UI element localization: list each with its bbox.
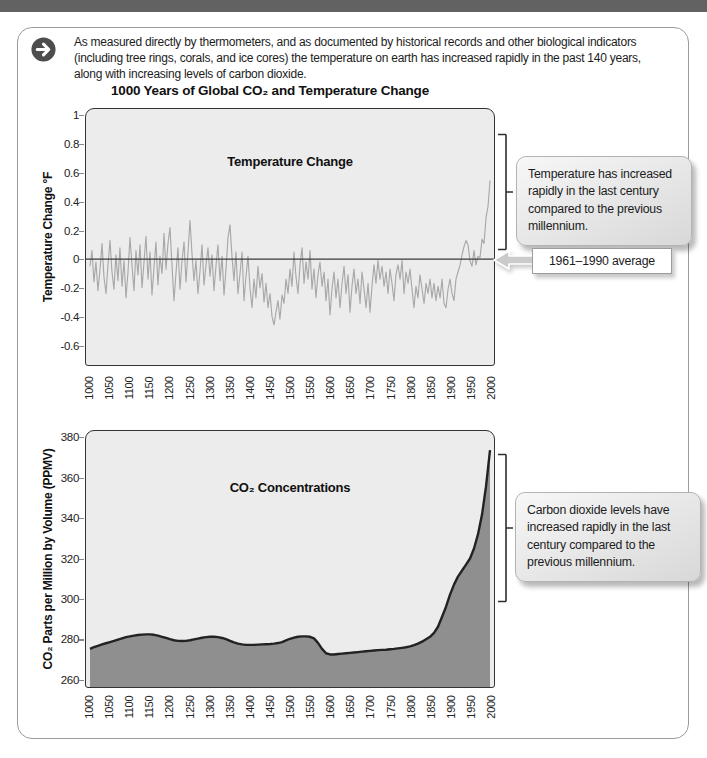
x-tick-label: 1650 [344,371,356,405]
figure-page: As measured directly by thermometers, an… [0,0,707,758]
y-tick-label: 300 [51,592,79,606]
y-tick-mark [79,144,84,145]
x-tick-label: 1950 [465,690,477,724]
x-tick-label: 1900 [445,371,457,405]
average-label: 1961–1990 average [532,248,672,274]
temperature-series-svg [86,109,494,365]
y-tick-mark [79,346,84,347]
annotation-bracket-co2 [495,453,515,603]
callout-co2: Carbon dioxide levels have increased rap… [515,492,701,582]
x-tick-label: 1650 [344,690,356,724]
x-tick-label: 1200 [163,690,175,724]
x-tick-label: 1600 [324,690,336,724]
y-tick-mark [79,478,84,479]
x-tick-label: 1750 [385,690,397,724]
x-tick-label: 2000 [485,690,497,724]
y-tick-mark [79,437,84,438]
x-tick-label: 1050 [103,371,115,405]
x-tick-label: 1600 [324,371,336,405]
x-tick-label: 1900 [445,690,457,724]
y-tick-label: -0.6 [51,339,79,353]
y-tick-mark [79,173,84,174]
y-tick-label: 360 [51,471,79,485]
x-tick-label: 1850 [425,371,437,405]
y-tick-mark [79,288,84,289]
x-tick-label: 2000 [485,371,497,405]
x-tick-label: 1850 [425,690,437,724]
y-tick-label: 0.6 [51,166,79,180]
x-tick-label: 1250 [184,690,196,724]
y-tick-label: 0.4 [51,195,79,209]
x-tick-label: 1300 [204,690,216,724]
x-tick-label: 1100 [123,690,135,724]
y-tick-label: -0.4 [51,310,79,324]
top-bar [0,0,707,12]
y-tick-mark [79,259,84,260]
x-tick-label: 1700 [364,371,376,405]
x-tick-label: 1200 [163,371,175,405]
y-tick-label: 320 [51,552,79,566]
x-tick-label: 1000 [83,371,95,405]
y-tick-mark [79,202,84,203]
y-tick-mark [79,115,84,116]
x-tick-label: 1100 [123,371,135,405]
y-tick-label: 0.2 [51,224,79,238]
co2-series-svg [86,431,494,687]
temperature-plot-area [85,108,495,366]
x-tick-label: 1750 [385,371,397,405]
x-tick-label: 1400 [244,371,256,405]
x-tick-label: 1150 [143,690,155,724]
x-tick-label: 1450 [264,371,276,405]
x-tick-label: 1800 [405,690,417,724]
left-arrow-icon [492,248,534,272]
intro-paragraph: As measured directly by thermometers, an… [74,34,686,82]
x-tick-label: 1350 [224,690,236,724]
x-tick-label: 1400 [244,690,256,724]
x-tick-label: 1500 [284,690,296,724]
x-tick-label: 1550 [304,690,316,724]
x-tick-label: 1450 [264,690,276,724]
arrow-right-circle-icon [30,36,57,63]
y-tick-label: -0.2 [51,281,79,295]
x-tick-label: 1700 [364,690,376,724]
y-tick-mark [79,559,84,560]
x-tick-label: 1000 [83,690,95,724]
y-tick-label: 280 [51,632,79,646]
x-tick-label: 1800 [405,371,417,405]
annotation-bracket-temperature [495,133,515,251]
x-tick-label: 1250 [184,371,196,405]
x-tick-label: 1500 [284,371,296,405]
y-tick-label: 1 [51,108,79,122]
y-tick-mark [79,231,84,232]
y-tick-mark [79,639,84,640]
temperature-chart-title: Temperature Change [85,154,495,169]
x-tick-label: 1150 [143,371,155,405]
y-tick-mark [79,317,84,318]
x-tick-label: 1550 [304,371,316,405]
x-tick-label: 1350 [224,371,236,405]
co2-plot-area [85,430,495,688]
y-tick-label: 340 [51,511,79,525]
x-tick-label: 1050 [103,690,115,724]
y-tick-mark [79,599,84,600]
y-tick-label: 380 [51,430,79,444]
y-tick-mark [79,518,84,519]
figure-title: 1000 Years of Global CO₂ and Temperature… [30,83,510,98]
y-tick-mark [79,680,84,681]
y-tick-label: 260 [51,673,79,687]
y-tick-label: 0.8 [51,137,79,151]
x-tick-label: 1950 [465,371,477,405]
y-tick-label: 0 [51,252,79,266]
x-tick-label: 1300 [204,371,216,405]
callout-temperature: Temperature has increased rapidly in the… [516,156,692,246]
co2-chart-title: CO₂ Concentrations [85,480,495,495]
